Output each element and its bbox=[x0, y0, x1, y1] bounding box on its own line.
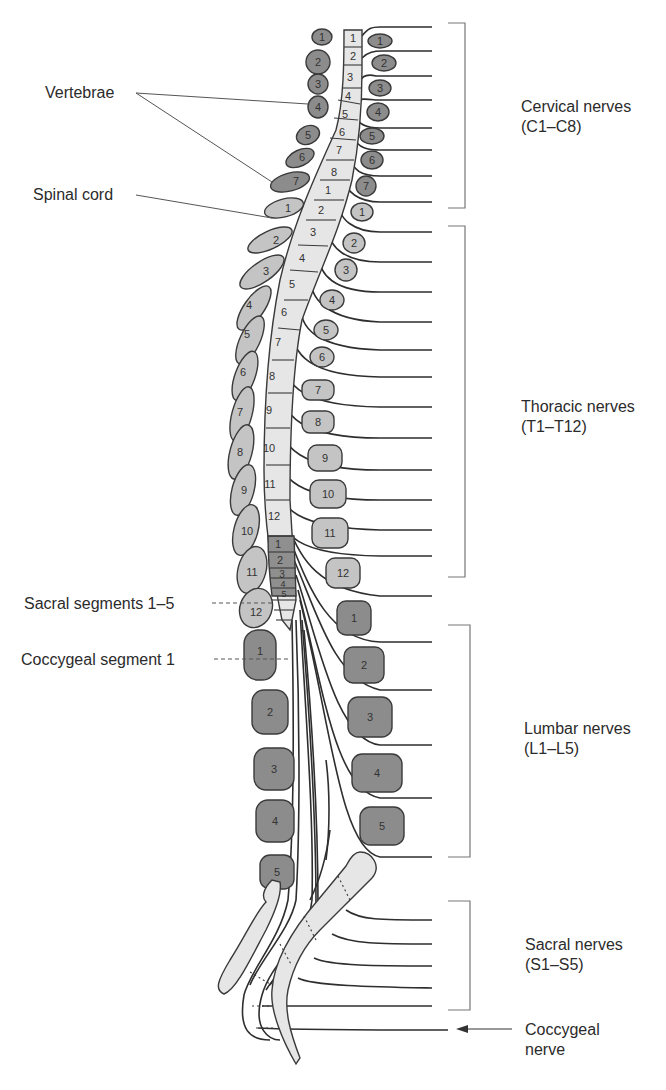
lumbar-nerves-label: Lumbar nerves (L1–L5) bbox=[524, 719, 631, 759]
cervical-bracket bbox=[448, 23, 465, 208]
lv-t2: 2 bbox=[273, 234, 279, 246]
cord-t5: 5 bbox=[289, 278, 295, 290]
lv-t8: 8 bbox=[237, 446, 243, 458]
lumbar-nerves-name: Lumbar nerves bbox=[524, 719, 631, 739]
cord-l2: 2 bbox=[277, 554, 283, 566]
spinal-nerve-diagram: 1 2 3 4 5 6 7 8 1 2 3 4 5 6 7 8 9 10 11 … bbox=[0, 0, 666, 1090]
spinal-cord-label: Spinal cord bbox=[33, 185, 113, 205]
lv-l2: 2 bbox=[267, 706, 273, 718]
coccygeal-segment-label: Coccygeal segment 1 bbox=[21, 650, 175, 670]
rv-c7: 7 bbox=[363, 180, 369, 192]
rv-t11: 11 bbox=[324, 527, 335, 539]
cord-t12: 12 bbox=[268, 510, 280, 522]
rv-c4: 4 bbox=[375, 106, 381, 118]
lv-t9: 9 bbox=[241, 484, 247, 496]
rv-t9: 9 bbox=[322, 452, 328, 464]
cervical-nerves-range: (C1–C8) bbox=[521, 117, 631, 137]
rv-l2: 2 bbox=[361, 659, 367, 671]
cord-t1: 1 bbox=[325, 184, 331, 196]
thoracic-nerves-label: Thoracic nerves (T1–T12) bbox=[521, 397, 635, 437]
cord-c6: 6 bbox=[339, 126, 345, 138]
cord-l1: 1 bbox=[275, 538, 281, 550]
lv-t10: 10 bbox=[241, 525, 253, 537]
lv-c4: 4 bbox=[315, 101, 321, 113]
cord-l4: 4 bbox=[280, 579, 285, 589]
lv-t3: 3 bbox=[263, 265, 269, 277]
cord-c8: 8 bbox=[331, 166, 337, 178]
lv-l5: 5 bbox=[274, 866, 280, 878]
rv-c3: 3 bbox=[377, 82, 383, 94]
lv-t5: 5 bbox=[244, 328, 250, 340]
lv-c1: 1 bbox=[319, 31, 325, 43]
lv-t1: 1 bbox=[285, 202, 291, 214]
cord-c4: 4 bbox=[345, 90, 351, 102]
lv-l4: 4 bbox=[272, 815, 278, 827]
lumbar-nerves-range: (L1–L5) bbox=[524, 739, 631, 759]
lv-c2: 2 bbox=[315, 56, 321, 68]
cord-t2: 2 bbox=[318, 204, 324, 216]
group-brackets bbox=[448, 23, 470, 1010]
rv-c5: 5 bbox=[369, 130, 375, 142]
coccygeal-arrow bbox=[456, 1025, 512, 1033]
sacral-nerves-label: Sacral nerves (S1–S5) bbox=[525, 935, 623, 975]
cord-t8: 8 bbox=[269, 370, 275, 382]
thoracic-nerves-range: (T1–T12) bbox=[521, 417, 635, 437]
thoracic-nerves-name: Thoracic nerves bbox=[521, 397, 635, 417]
coccygeal-nerve-line2: nerve bbox=[525, 1040, 600, 1060]
rv-t2: 2 bbox=[351, 237, 357, 249]
rv-c2: 2 bbox=[381, 57, 387, 69]
vertebrae-label: Vertebrae bbox=[45, 83, 114, 103]
sacral-bracket bbox=[448, 901, 470, 1010]
lumbar-bracket bbox=[448, 625, 470, 857]
cord-c5: 5 bbox=[342, 108, 348, 120]
lv-l1: 1 bbox=[257, 645, 263, 657]
rv-l1: 1 bbox=[351, 612, 357, 624]
cord-c7: 7 bbox=[336, 144, 342, 156]
rv-t5: 5 bbox=[323, 324, 329, 336]
lv-t6: 6 bbox=[240, 366, 246, 378]
cord-c2: 2 bbox=[350, 50, 356, 62]
cord-c1: 1 bbox=[350, 32, 356, 44]
rv-l3: 3 bbox=[367, 711, 373, 723]
cord-t11: 11 bbox=[264, 478, 275, 490]
cord-t4: 4 bbox=[299, 252, 305, 264]
lv-c7: 7 bbox=[293, 175, 299, 187]
rv-t1: 1 bbox=[359, 206, 365, 218]
sacral-nerves-range: (S1–S5) bbox=[525, 955, 623, 975]
rv-t3: 3 bbox=[343, 264, 349, 276]
lv-t11: 11 bbox=[246, 566, 257, 578]
rv-t6: 6 bbox=[319, 351, 325, 363]
cord-t3: 3 bbox=[310, 226, 316, 238]
cord-t6: 6 bbox=[281, 306, 287, 318]
lv-c5: 5 bbox=[305, 129, 311, 141]
cord-t9: 9 bbox=[266, 404, 272, 416]
cord-l5: 5 bbox=[281, 589, 286, 599]
sacral-nerves-name: Sacral nerves bbox=[525, 935, 623, 955]
cord-t10: 10 bbox=[263, 442, 275, 454]
coccygeal-nerve-line1: Coccygeal bbox=[525, 1020, 600, 1040]
lv-t7: 7 bbox=[237, 406, 243, 418]
cord-l3: 3 bbox=[279, 569, 285, 580]
sacral-segments-label: Sacral segments 1–5 bbox=[24, 594, 174, 614]
lv-t12: 12 bbox=[250, 606, 262, 618]
rv-t8: 8 bbox=[315, 416, 321, 428]
lv-c6: 6 bbox=[299, 151, 305, 163]
rv-t7: 7 bbox=[315, 384, 321, 396]
cord-c3: 3 bbox=[347, 71, 353, 83]
rv-t10: 10 bbox=[322, 488, 334, 500]
thoracic-bracket bbox=[448, 226, 465, 577]
lv-c3: 3 bbox=[315, 78, 321, 90]
cervical-nerves-label: Cervical nerves (C1–C8) bbox=[521, 97, 631, 137]
rv-t12: 12 bbox=[337, 567, 349, 579]
rv-l5: 5 bbox=[379, 820, 385, 832]
cervical-nerves-name: Cervical nerves bbox=[521, 97, 631, 117]
rv-c6: 6 bbox=[369, 154, 375, 166]
coccygeal-nerve-label: Coccygeal nerve bbox=[525, 1020, 600, 1060]
rv-c1: 1 bbox=[377, 35, 383, 47]
lv-t4: 4 bbox=[246, 299, 252, 311]
lv-l3: 3 bbox=[271, 763, 277, 775]
rv-t4: 4 bbox=[329, 294, 335, 306]
sacrum-left bbox=[218, 880, 280, 994]
rv-l4: 4 bbox=[374, 767, 380, 779]
cord-t7: 7 bbox=[275, 336, 281, 348]
